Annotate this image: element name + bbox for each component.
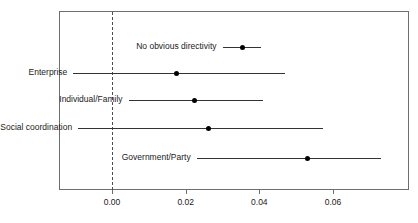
confidence-interval-bar (197, 158, 381, 159)
row-label: Individual/Family (0, 95, 123, 104)
x-tick-mark (333, 190, 334, 194)
cropped-title-remnant (0, 0, 418, 4)
row-label: Social coordination (0, 123, 72, 132)
x-tick-label: 0.06 (325, 198, 342, 207)
confidence-interval-bar (78, 128, 323, 129)
point-estimate-marker (305, 156, 310, 161)
row-label: No obvious directivity (17, 42, 217, 51)
x-tick-label: 0.02 (177, 198, 194, 207)
row-label: Enterprise (0, 68, 67, 77)
x-tick-mark (112, 190, 113, 194)
confidence-interval-bar (73, 73, 285, 74)
x-tick-label: 0.04 (251, 198, 268, 207)
row-label: Government/Party (0, 153, 191, 162)
x-tick-mark (259, 190, 260, 194)
coefficient-plot-figure: No obvious directivityEnterpriseIndividu… (0, 0, 418, 223)
x-tick-mark (186, 190, 187, 194)
point-estimate-marker (174, 71, 179, 76)
x-tick-label: 0.00 (104, 198, 121, 207)
